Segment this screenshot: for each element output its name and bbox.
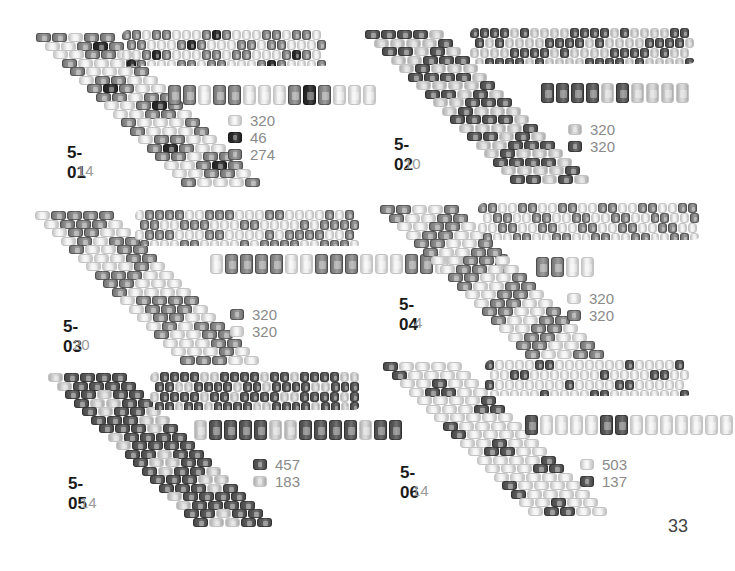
bead xyxy=(630,28,639,38)
bead xyxy=(618,203,627,213)
bead xyxy=(470,48,479,58)
chart-row xyxy=(181,178,261,188)
bead xyxy=(660,233,669,240)
bead xyxy=(665,58,674,64)
bead xyxy=(127,40,136,50)
bead xyxy=(582,233,591,240)
bead xyxy=(535,58,544,64)
bead xyxy=(172,50,181,60)
bead xyxy=(548,223,557,233)
bead xyxy=(272,382,281,392)
bead xyxy=(505,380,514,390)
bead xyxy=(192,50,201,60)
bead xyxy=(142,50,151,60)
chart-row xyxy=(525,350,605,360)
bead xyxy=(220,372,229,382)
bead xyxy=(127,60,136,66)
bead xyxy=(331,402,340,410)
bead xyxy=(227,60,236,66)
bead xyxy=(676,83,689,103)
bead xyxy=(688,223,697,233)
bead xyxy=(233,382,242,392)
bead xyxy=(247,60,256,66)
bead xyxy=(540,48,549,58)
bead xyxy=(540,370,549,380)
bead xyxy=(335,230,344,240)
bead xyxy=(660,390,669,396)
bead xyxy=(635,58,644,64)
bead xyxy=(611,233,620,240)
bead xyxy=(275,230,284,240)
bead-swatch-icon xyxy=(253,459,267,470)
bead xyxy=(243,382,252,392)
bead xyxy=(558,175,573,184)
bead xyxy=(210,240,219,246)
bead xyxy=(690,415,703,435)
bead-count: 320 xyxy=(250,112,275,129)
bead xyxy=(616,83,629,103)
bead xyxy=(312,50,321,60)
bead xyxy=(230,240,239,246)
bead xyxy=(280,220,289,230)
bead xyxy=(510,28,519,38)
bead xyxy=(625,360,634,370)
bead xyxy=(315,254,328,274)
bead xyxy=(493,213,502,223)
bead xyxy=(160,240,169,246)
bead xyxy=(565,58,574,64)
bead xyxy=(660,28,669,38)
bead xyxy=(645,380,654,390)
bead xyxy=(508,203,517,213)
bead xyxy=(350,372,359,382)
bead xyxy=(240,220,249,230)
bead xyxy=(290,392,299,402)
bead xyxy=(588,203,597,213)
bead xyxy=(655,58,664,64)
bead xyxy=(170,220,179,230)
bead xyxy=(560,48,569,58)
bead xyxy=(670,28,679,38)
bead xyxy=(340,220,349,230)
bead-swatch-icon xyxy=(567,293,581,304)
bead xyxy=(195,230,204,240)
bead xyxy=(650,28,659,38)
bead xyxy=(646,83,659,103)
bead xyxy=(284,420,297,440)
bead xyxy=(630,415,643,435)
bead xyxy=(272,50,281,60)
bead xyxy=(250,240,259,246)
bead xyxy=(297,40,306,50)
bead xyxy=(550,48,559,58)
bead xyxy=(605,360,614,370)
bead xyxy=(230,220,239,230)
bead xyxy=(220,220,229,230)
bead xyxy=(277,40,286,50)
bead xyxy=(329,420,342,440)
bead xyxy=(565,360,574,370)
bead xyxy=(520,390,529,396)
bead xyxy=(651,233,660,240)
bead xyxy=(600,28,609,38)
bead xyxy=(210,254,223,274)
page-number: 33 xyxy=(668,516,688,537)
bead xyxy=(345,210,354,220)
bead xyxy=(660,213,669,223)
bead xyxy=(340,392,349,402)
bead xyxy=(610,28,619,38)
bead xyxy=(498,223,507,233)
bead xyxy=(363,85,376,105)
bead-count: 274 xyxy=(250,146,275,163)
bead xyxy=(344,420,357,440)
bead xyxy=(270,220,279,230)
bead xyxy=(495,360,504,370)
bead xyxy=(287,40,296,50)
bead xyxy=(285,210,294,220)
bead xyxy=(162,50,171,60)
bead xyxy=(680,370,689,380)
chart-row xyxy=(510,175,590,185)
bead xyxy=(205,210,214,220)
bead xyxy=(250,220,259,230)
bead xyxy=(548,203,557,213)
bead xyxy=(562,233,571,240)
bead xyxy=(544,507,559,516)
